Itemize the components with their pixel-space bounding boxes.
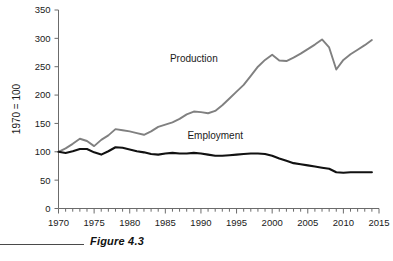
y-tick-label: 200 bbox=[35, 89, 51, 100]
series-annotations: ProductionEmployment bbox=[170, 53, 243, 141]
figure-caption-label: Figure 4.3 bbox=[90, 235, 144, 247]
x-tick-label: 1995 bbox=[226, 217, 247, 228]
series-label-employment: Employment bbox=[187, 130, 243, 141]
series-label-production: Production bbox=[170, 53, 218, 64]
x-axis-group: 1970197519801985199019952000200520102015 bbox=[48, 209, 390, 228]
x-tick-label: 1990 bbox=[190, 217, 211, 228]
y-axis-title: 1970 = 100 bbox=[11, 83, 22, 134]
line-chart: 050100150200250300350 1970 = 100 1970197… bbox=[0, 0, 393, 240]
x-tick-label: 2005 bbox=[297, 217, 318, 228]
y-tick-label: 300 bbox=[35, 33, 51, 44]
y-tick-label: 100 bbox=[35, 146, 51, 157]
y-tick-label: 350 bbox=[35, 4, 51, 15]
figure-caption-bar: Figure 4.3 bbox=[0, 235, 393, 257]
x-tick-label: 1980 bbox=[119, 217, 140, 228]
x-tick-label: 2000 bbox=[262, 217, 283, 228]
y-tick-label: 50 bbox=[40, 175, 51, 186]
caption-divider bbox=[0, 244, 84, 245]
x-tick-label: 1975 bbox=[84, 217, 105, 228]
y-axis-group: 050100150200250300350 1970 = 100 bbox=[11, 4, 59, 214]
x-axis-tick-labels: 1970197519801985199019952000200520102015 bbox=[48, 217, 390, 228]
y-axis-ticks bbox=[55, 10, 59, 209]
y-tick-label: 250 bbox=[35, 61, 51, 72]
figure-container: 050100150200250300350 1970 = 100 1970197… bbox=[0, 0, 393, 261]
y-axis-tick-labels: 050100150200250300350 bbox=[35, 4, 51, 214]
x-tick-label: 1970 bbox=[48, 217, 69, 228]
x-tick-label: 1985 bbox=[155, 217, 176, 228]
x-axis-ticks bbox=[59, 209, 380, 214]
series-line-employment bbox=[59, 147, 372, 173]
y-tick-label: 0 bbox=[45, 203, 50, 214]
x-tick-label: 2015 bbox=[368, 217, 389, 228]
y-tick-label: 150 bbox=[35, 118, 51, 129]
x-tick-label: 2010 bbox=[333, 217, 354, 228]
